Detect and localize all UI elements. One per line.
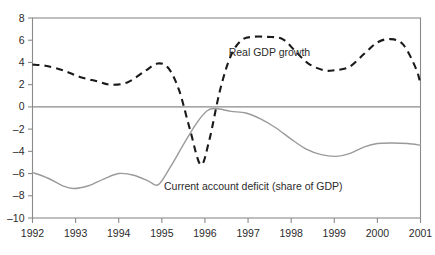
y-tick-label: –2: [13, 123, 25, 135]
x-tick-label: 2001: [409, 227, 433, 239]
x-tick-label: 1997: [236, 227, 260, 239]
y-tick-label: 2: [19, 78, 25, 90]
y-tick-label: 8: [19, 12, 25, 24]
series-label-current-account-deficit: Current account deficit (share of GDP): [164, 180, 343, 192]
y-tick-label: 0: [19, 100, 25, 112]
x-tick-label: 1995: [150, 227, 174, 239]
data-series-group: [33, 37, 421, 189]
series-label-real-gdp-growth: Real GDP growth: [229, 46, 311, 58]
x-tick-label: 1994: [107, 227, 131, 239]
y-tick-label: –4: [13, 145, 25, 157]
y-tick-label: –10: [7, 212, 25, 224]
x-axis-ticks: [33, 218, 421, 223]
x-tick-label: 1992: [21, 227, 45, 239]
y-tick-label: 4: [19, 56, 25, 68]
y-axis-ticks: [28, 18, 33, 218]
x-tick-label: 2000: [366, 227, 390, 239]
x-tick-label: 1999: [323, 227, 347, 239]
y-axis-tick-labels: 86420–2–4–6–8–10: [7, 12, 25, 224]
line-chart: 86420–2–4–6–8–10 19921993199419951996199…: [0, 0, 435, 255]
series-line-current-account-deficit: [33, 109, 421, 189]
y-tick-label: –8: [13, 189, 25, 201]
x-tick-label: 1998: [279, 227, 303, 239]
x-axis-tick-labels: 1992199319941995199619971998199920002001: [21, 227, 433, 239]
series-line-real-gdp-growth: [33, 37, 421, 165]
y-tick-label: –6: [13, 167, 25, 179]
chart-container: 86420–2–4–6–8–10 19921993199419951996199…: [0, 0, 435, 255]
x-tick-label: 1993: [64, 227, 88, 239]
x-tick-label: 1996: [193, 227, 217, 239]
y-tick-label: 6: [19, 34, 25, 46]
